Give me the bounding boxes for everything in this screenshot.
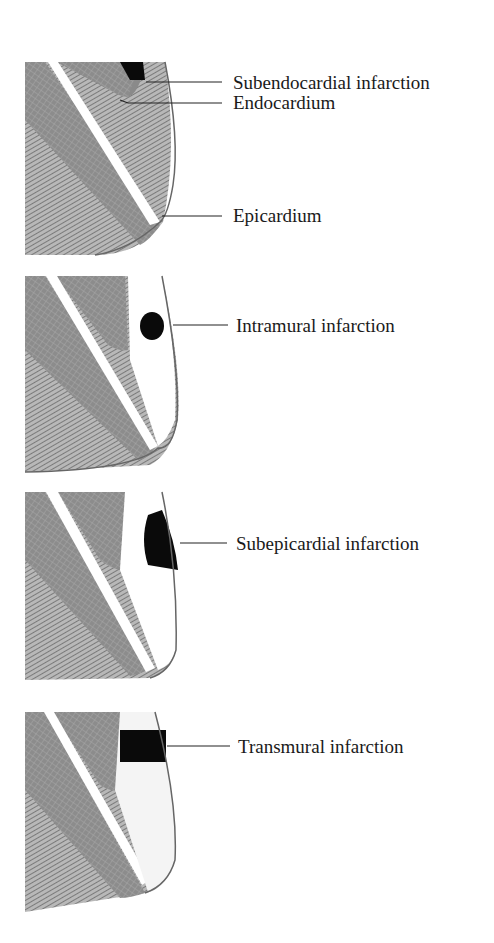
label-subepicardial-infarction: Subepicardial infarction [236,534,419,553]
label-transmural-infarction: Transmural infarction [238,737,404,756]
panel-subendocardial [25,62,222,255]
transmural-infarct [120,730,166,762]
label-epicardium: Epicardium [233,206,322,225]
label-intramural-infarction: Intramural infarction [236,316,395,335]
panel-transmural [25,712,230,912]
label-endocardium: Endocardium [233,93,335,112]
label-subendocardial-infarction: Subendocardial infarction [233,73,430,92]
intramural-infarct [140,312,164,340]
panel-subepicardial [25,492,227,680]
heart-wall-illustrations [0,0,494,943]
panel-intramural [25,276,228,472]
